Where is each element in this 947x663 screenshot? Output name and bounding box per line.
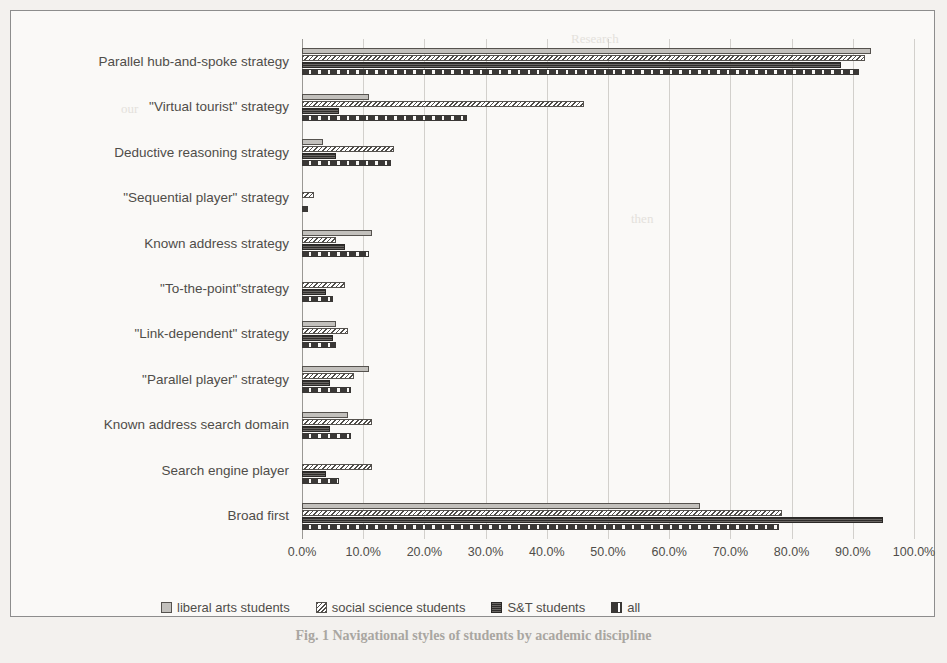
legend-label: all — [627, 600, 640, 615]
bar[interactable] — [302, 206, 308, 212]
legend-label: social science students — [332, 600, 466, 615]
bar-slot — [302, 62, 914, 68]
bar-group — [302, 403, 914, 448]
x-tick-label: 30.0% — [468, 545, 503, 559]
bar[interactable] — [302, 433, 351, 439]
bar[interactable] — [302, 251, 369, 257]
bar-slot — [302, 478, 914, 484]
bar[interactable] — [302, 321, 336, 327]
bar-slot — [302, 457, 914, 463]
bar[interactable] — [302, 412, 348, 418]
legend-item[interactable]: all — [611, 600, 640, 615]
category-label: "Sequential player" strategy — [123, 191, 289, 205]
bar[interactable] — [302, 69, 859, 75]
x-tick-label: 0.0% — [288, 545, 317, 559]
bar[interactable] — [302, 478, 339, 484]
x-tick-label: 40.0% — [529, 545, 564, 559]
bar-slot — [302, 48, 914, 54]
bar[interactable] — [302, 426, 330, 432]
bar-slot — [302, 160, 914, 166]
figure-caption: Fig. 1 Navigational styles of students b… — [0, 628, 947, 644]
bar-slot — [302, 433, 914, 439]
bar[interactable] — [302, 328, 348, 334]
bar-slot — [302, 206, 914, 212]
bar[interactable] — [302, 153, 336, 159]
bar[interactable] — [302, 48, 871, 54]
category-label: "Virtual tourist" strategy — [149, 100, 289, 114]
legend-label: S&T students — [507, 600, 585, 615]
bar[interactable] — [302, 471, 326, 477]
bar[interactable] — [302, 503, 700, 509]
bar[interactable] — [302, 108, 339, 114]
bar-group — [302, 84, 914, 129]
bar-slot — [302, 251, 914, 257]
legend-item[interactable]: liberal arts students — [161, 600, 290, 615]
bar[interactable] — [302, 342, 336, 348]
bar[interactable] — [302, 230, 372, 236]
bar-slot — [302, 237, 914, 243]
category-label: "Parallel player" strategy — [142, 373, 289, 387]
bar-slot — [302, 373, 914, 379]
bar[interactable] — [302, 115, 467, 121]
chart-figure: Research our then Parallel hub-and-spoke… — [10, 10, 935, 617]
caption-label: Fig. 1 Navigational styles of students b… — [296, 628, 652, 643]
bar[interactable] — [302, 510, 782, 516]
bar-slot — [302, 380, 914, 386]
x-tick-label: 70.0% — [713, 545, 748, 559]
bar-slot — [302, 510, 914, 516]
bar-group — [302, 357, 914, 402]
bar[interactable] — [302, 366, 369, 372]
bar[interactable] — [302, 237, 336, 243]
bar-slot — [302, 342, 914, 348]
bar[interactable] — [302, 62, 841, 68]
x-tick-label: 20.0% — [407, 545, 442, 559]
bar-slot — [302, 185, 914, 191]
bar-group — [302, 448, 914, 493]
bar[interactable] — [302, 282, 345, 288]
category-label: Search engine player — [161, 464, 289, 478]
bar-slot — [302, 335, 914, 341]
bar[interactable] — [302, 419, 372, 425]
bar[interactable] — [302, 94, 369, 100]
bar-slot — [302, 387, 914, 393]
plot-area — [302, 39, 914, 539]
bar[interactable] — [302, 101, 584, 107]
bar-slot — [302, 426, 914, 432]
bar-group — [302, 221, 914, 266]
x-tick-label: 50.0% — [590, 545, 625, 559]
bar[interactable] — [302, 160, 391, 166]
bar[interactable] — [302, 55, 865, 61]
bar[interactable] — [302, 524, 779, 530]
bar-slot — [302, 503, 914, 509]
legend-item[interactable]: S&T students — [491, 600, 585, 615]
bar-slot — [302, 419, 914, 425]
x-tick-label: 80.0% — [774, 545, 809, 559]
bar[interactable] — [302, 517, 883, 523]
legend-item[interactable]: social science students — [316, 600, 466, 615]
chart-legend: liberal arts studentssocial science stud… — [161, 595, 781, 619]
category-label: Broad first — [227, 509, 289, 523]
bar[interactable] — [302, 296, 333, 302]
bar-slot — [302, 94, 914, 100]
bar-slot — [302, 464, 914, 470]
bar-slot — [302, 146, 914, 152]
bar[interactable] — [302, 139, 323, 145]
bar[interactable] — [302, 373, 354, 379]
bar[interactable] — [302, 380, 330, 386]
bar-slot — [302, 321, 914, 327]
bar[interactable] — [302, 387, 351, 393]
bar-group — [302, 39, 914, 84]
bar-group — [302, 175, 914, 220]
category-label: "To-the-point"strategy — [160, 282, 289, 296]
bar-slot — [302, 101, 914, 107]
bar[interactable] — [302, 146, 394, 152]
bar[interactable] — [302, 192, 314, 198]
bar[interactable] — [302, 289, 326, 295]
bar[interactable] — [302, 335, 333, 341]
bar[interactable] — [302, 244, 345, 250]
bar[interactable] — [302, 464, 372, 470]
bar-group — [302, 494, 914, 539]
x-tick-label: 60.0% — [651, 545, 686, 559]
category-label: Known address strategy — [144, 237, 289, 251]
swatch-dashed-dark-icon — [611, 602, 622, 613]
